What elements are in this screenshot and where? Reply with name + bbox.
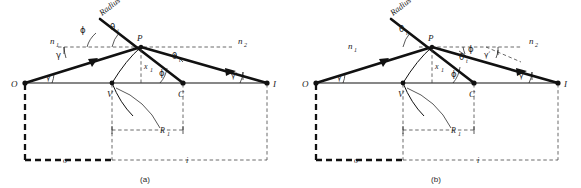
label-point-P: P (136, 33, 143, 43)
label-medium-n2-sub: 2 (244, 42, 247, 48)
label-medium-n1: n (50, 36, 55, 46)
figure-container: O V C I P n 1 n 2 Radius ϕ θ i θ t ϕ γ γ… (0, 0, 581, 188)
label-medium-n1: n (348, 41, 353, 51)
point-I-marker (264, 80, 269, 85)
point-P-marker (430, 45, 434, 49)
label-point-I: I (563, 79, 568, 89)
refracting-surface-arc-lower (112, 83, 133, 116)
label-radius: Radius (96, 0, 122, 18)
label-object-distance: o (63, 156, 67, 165)
label-point-V: V (107, 89, 114, 99)
radius-arc-indicator (116, 88, 160, 128)
point-O-marker (22, 80, 27, 85)
label-medium-n2-sub: 2 (535, 42, 538, 48)
label-medium-n2: n (529, 36, 534, 46)
label-height-x1-sub: 1 (150, 67, 153, 73)
point-C-marker (471, 80, 476, 85)
label-radius-R1: R (450, 126, 456, 135)
panel-a-diagram: O V C I P n 1 n 2 Radius ϕ θ i θ t ϕ γ γ… (0, 0, 290, 188)
label-point-C: C (469, 89, 476, 99)
point-O-marker (313, 80, 318, 85)
phi-top-arc (87, 33, 96, 47)
point-P-marker (139, 45, 143, 49)
incident-ray (316, 47, 432, 83)
label-image-distance: i (186, 156, 188, 165)
label-theta-t-sub: t (466, 58, 468, 64)
label-gamma-at-O: γ (337, 73, 342, 82)
panel-b: O V C I P n 1 n 2 Radius θ i θ t ϕ ϕ γ γ… (291, 0, 581, 188)
label-point-V: V (398, 89, 405, 99)
label-point-O: O (302, 79, 309, 89)
gamma-prime-arc (240, 72, 243, 83)
label-gamma-at-O: γ (46, 73, 51, 82)
label-radius-R1-sub: 1 (167, 131, 170, 137)
radius-arc-indicator (407, 88, 451, 128)
point-V-marker (110, 81, 115, 86)
label-medium-n2: n (238, 36, 243, 46)
label-radius-R1: R (159, 126, 165, 135)
label-height-x1: x (434, 62, 439, 71)
point-C-marker (180, 80, 185, 85)
label-radius: Radius (387, 0, 413, 18)
label-phi-top: ϕ (80, 25, 86, 35)
label-phi-lower: ϕ (159, 68, 165, 78)
label-object-distance: o (354, 156, 358, 165)
incident-ray (25, 47, 141, 83)
label-point-I: I (272, 79, 277, 89)
label-gamma-upper: γ (56, 50, 61, 60)
label-theta-i: θ (399, 24, 404, 34)
label-medium-n1-sub: 1 (56, 42, 59, 48)
theta-i-arc (112, 33, 119, 47)
point-V-marker (401, 81, 406, 86)
point-I-marker (555, 80, 560, 85)
label-medium-n1-sub: 1 (354, 47, 357, 53)
label-height-x1-sub: 1 (441, 67, 444, 73)
label-point-C: C (178, 89, 185, 99)
label-theta-t: θ (459, 52, 464, 62)
label-radius-R1-sub: 1 (458, 131, 461, 137)
label-gamma-prime: γ′ (231, 71, 237, 80)
label-gamma-prime-lower: γ′ (519, 71, 525, 80)
panel-a-caption: (a) (0, 175, 290, 184)
label-phi-upper: ϕ (468, 44, 474, 54)
panel-b-caption: (b) (291, 175, 581, 184)
label-phi-lower: ϕ (451, 69, 457, 79)
panel-a: O V C I P n 1 n 2 Radius ϕ θ i θ t ϕ γ γ… (0, 0, 290, 188)
gamma-prime-upper-ref-line (486, 47, 521, 62)
label-image-distance: i (477, 156, 479, 165)
panel-b-diagram: O V C I P n 1 n 2 Radius θ i θ t ϕ ϕ γ γ… (291, 0, 581, 188)
label-theta-t: θ (172, 51, 177, 61)
refracting-surface-arc-lower (403, 83, 424, 116)
label-gamma-prime-upper: γ′ (484, 50, 490, 59)
label-height-x1: x (143, 62, 148, 71)
label-theta-i: θ (110, 22, 115, 32)
label-point-P: P (427, 33, 434, 43)
label-point-O: O (11, 79, 18, 89)
